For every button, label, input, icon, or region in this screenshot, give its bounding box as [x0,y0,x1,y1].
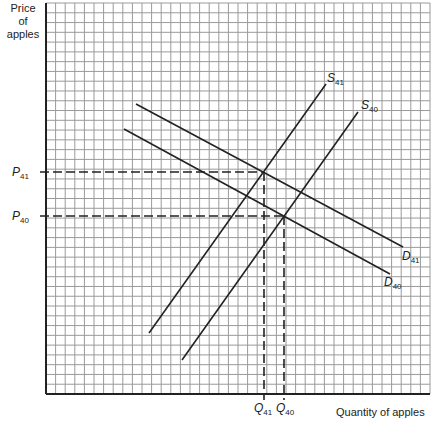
curve-label-d40: D40 [384,276,402,291]
y-axis-label-line: of [2,15,44,28]
y-axis-label: Price of apples [2,2,44,41]
quantity-label-q41: Q41 [254,402,272,417]
curve-label-d41: D41 [402,250,420,265]
curve-label-s40: S40 [361,99,378,114]
quantity-label-q40: Q40 [276,402,294,417]
supply-demand-diagram [0,0,435,422]
grid [46,3,430,394]
price-label-p40: P40 [12,210,29,225]
price-label-p41: P41 [12,166,29,181]
y-axis-label-line: apples [2,28,44,41]
x-axis-label: Quantity of apples [336,407,425,418]
curve-label-s41: S41 [327,72,344,87]
y-axis-label-line: Price [2,2,44,15]
